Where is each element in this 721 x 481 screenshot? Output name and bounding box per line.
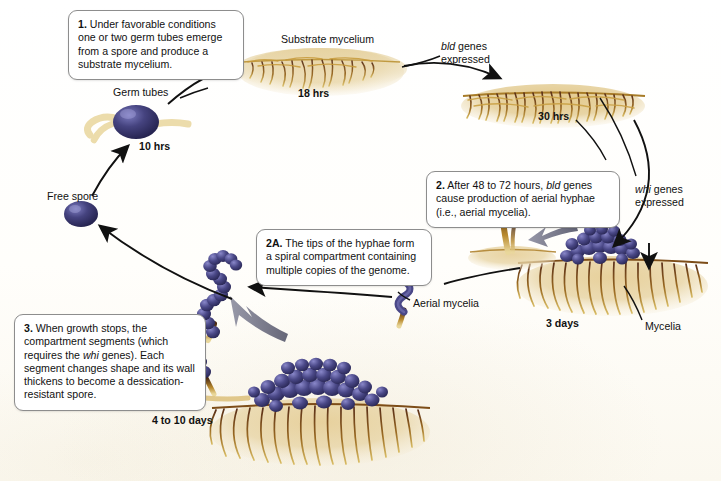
arrow-spore-to-germtube — [92, 146, 128, 196]
label-germ-tubes: Germ tubes — [113, 86, 168, 99]
whi-expressed-word: expressed — [635, 196, 684, 208]
label-aerial-mycelia: Aerial mycelia — [413, 297, 479, 310]
callout-3-gene-name: whi — [83, 349, 99, 361]
leader-30hrs — [576, 120, 606, 160]
callout-step-1: 1. Under favorable conditions one or two… — [68, 10, 244, 80]
callout-2a-text: The tips of the hyphae form a spiral com… — [266, 237, 416, 276]
callout-2-text-before: After 48 to 72 hours, — [445, 179, 546, 191]
whi-genes-word: genes — [651, 183, 683, 195]
leader-mycelia — [624, 286, 642, 320]
label-mycelia: Mycelia — [645, 320, 681, 333]
whi-gene-name: whi — [635, 183, 651, 195]
label-4-to-10-days: 4 to 10 days — [152, 414, 213, 427]
leader-germ-tubes — [180, 88, 208, 98]
leader-bld-genes — [402, 56, 440, 67]
callout-3-number: 3. — [24, 322, 33, 334]
callout-2-number: 2. — [436, 179, 445, 191]
label-whi-genes-expressed: whi genesexpressed — [635, 183, 684, 208]
label-18-hrs: 18 hrs — [298, 87, 329, 100]
label-10-hrs: 10 hrs — [139, 140, 170, 153]
label-3-days: 3 days — [546, 317, 579, 330]
figure-canvas: 1. Under favorable conditions one or two… — [0, 0, 721, 481]
label-substrate-mycelium: Substrate mycelium — [281, 33, 374, 46]
callout-step-2a: 2A. The tips of the hyphae form a spiral… — [256, 229, 432, 286]
callout-2-gene-name: bld — [546, 179, 560, 191]
callout-1-text: Under favorable conditions one or two ge… — [78, 18, 222, 70]
bld-genes-word: genes — [455, 40, 487, 52]
arrow-3days-to-aerial — [444, 268, 520, 284]
arrow-spiral-to-freespore — [100, 226, 232, 299]
leader-aerial-mycelia — [398, 292, 410, 300]
label-free-spore: Free spore — [47, 190, 98, 203]
callout-step-3: 3. When growth stops, the compartment se… — [14, 314, 206, 411]
callout-2a-number: 2A. — [266, 237, 283, 249]
label-30-hrs: 30 hrs — [538, 110, 569, 123]
leader-whi-genes — [600, 98, 636, 176]
bld-gene-name: bld — [441, 40, 455, 52]
callout-1-number: 1. — [78, 18, 87, 30]
label-bld-genes-expressed: bld genesexpressed — [441, 40, 490, 65]
arrow-aerial-to-spiral — [250, 287, 392, 297]
callout-step-2: 2. After 48 to 72 hours, bld genes cause… — [426, 171, 620, 228]
bld-expressed-word: expressed — [441, 53, 490, 65]
